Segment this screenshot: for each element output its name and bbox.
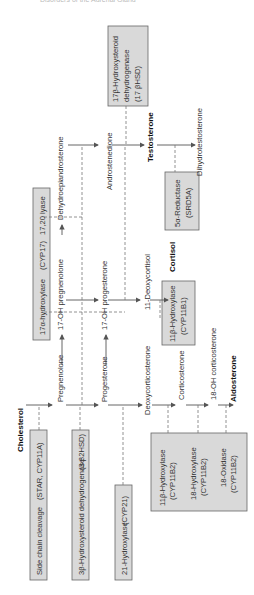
enzyme-gene-cyp11b2-a: (CYP11B2): [168, 462, 177, 500]
metabolite-deoxycorticosterone: Deoxycorticosterone: [143, 346, 152, 415]
enzyme-gene-cyp11b2-c: (CYP11B2): [229, 455, 238, 493]
enzyme-label-cyp11b2-a: 11β-Hydroxylase: [158, 449, 167, 506]
enzyme-gene-srd5a: (SRD5A): [184, 187, 193, 218]
enzyme-gene-cyp21: (CYP21): [120, 495, 129, 525]
metabolite-17oh-progesterone: 17-OH progesterone: [100, 261, 109, 330]
enzyme-label-hsd3b: 3β-Hydroxysteroid dehydrogenase: [77, 459, 86, 575]
enzyme-gene-hsd3b: (3 β2HSD): [77, 434, 86, 470]
enzyme-label-cyp17: 17α-hydroxylase: [38, 279, 47, 335]
enzyme-gene-scc: (STAR, CYP11A): [35, 442, 44, 500]
metabolite-17oh-pregnenolone: 17-OH pregnenolone: [56, 259, 65, 330]
enzyme-label-hsd17b: 17β-Hydroxysteroid: [111, 36, 120, 102]
enzyme-gene-cyp11b1: (CYP11B1): [179, 297, 188, 335]
enzyme-label-cyp11b2-c: 18-Oxidase: [219, 448, 228, 487]
metabolite-androstenedione: Androstenedione: [105, 133, 114, 190]
metabolite-progesterone: Progesterone: [100, 356, 109, 402]
metabolite-cortisol: Cortisol: [168, 242, 177, 272]
metabolite-corticosterone: Corticosterone: [177, 351, 186, 400]
enzyme-gene-cyp11b2-b: (CYP11B2): [199, 458, 208, 496]
metabolite-11-deoxycortisol: 11-Deoxycortisol: [143, 254, 152, 310]
enzyme-lyase-cyp17: 17,20 lyase: [38, 196, 47, 235]
metabolite-dhea: Dehydroepiandrosterone: [56, 136, 65, 220]
metabolite-testosterone: Testosterone: [146, 112, 155, 162]
enzyme-gene-cyp17: (CYP17): [38, 240, 47, 270]
enzyme-label-srd5a: 5α-Reductase: [173, 180, 182, 227]
enzyme-label-scc: Side chain cleavage: [35, 507, 44, 575]
metabolite-aldosterone: Aldosterone: [229, 355, 238, 402]
metabolite-18oh-corticosterone: 18-OH corticosterone: [209, 328, 218, 400]
enzyme-label-cyp11b1: 11β-Hydroxylase: [168, 285, 177, 342]
metabolite-pregnenolone: Pregnenolone: [56, 355, 65, 402]
metabolite-dihydrotestosterone: Dihydrotestosterone: [195, 108, 204, 176]
enzyme-box-srd5a: [165, 172, 199, 230]
metabolite-cholesterol: Cholesterol: [16, 408, 25, 452]
enzyme-label-cyp21: 21-Hydroxylase: [120, 522, 129, 575]
steroidogenesis-diagram: Cholesterol Pregnenolone Progesterone De…: [0, 0, 254, 595]
enzyme-gene-hsd17b: (17 βHSD): [133, 66, 142, 102]
enzyme-label-cyp11b2-b: 18-Hydroxylase: [189, 447, 198, 500]
enzyme-label-hsd17b-2: dehydrogenase: [122, 50, 131, 102]
